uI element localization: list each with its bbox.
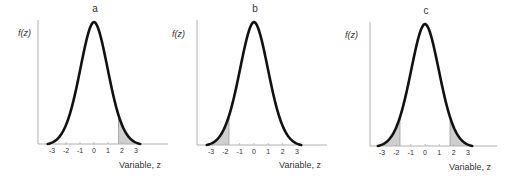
x-tick-label: 0 (423, 149, 427, 156)
x-tick-label: 3 (295, 148, 299, 155)
x-tick-label: 1 (106, 147, 110, 154)
y-axis-label: f(z) (18, 28, 31, 38)
x-tick-label: 0 (92, 147, 96, 154)
density-curve (378, 24, 472, 146)
x-tick-label: 3 (134, 147, 138, 154)
panel-title: c (424, 5, 429, 16)
three-panel-chart: -3-2-10123af(z)Variable, z -3-2-10123bf(… (0, 0, 510, 184)
panel-title: a (92, 3, 98, 14)
x-tick-label: -1 (408, 149, 414, 156)
density-curve (48, 22, 140, 144)
x-tick-label: -1 (237, 148, 243, 155)
panel-c: -3-2-10123cf(z)Variable, z (345, 5, 497, 172)
x-tick-label: -3 (208, 148, 214, 155)
shaded-tail-region (119, 115, 141, 144)
x-tick-label: -3 (49, 147, 55, 154)
x-tick-label: 1 (266, 148, 270, 155)
density-curve (207, 22, 301, 145)
x-tick-label: 3 (466, 149, 470, 156)
shaded-tail-region (378, 117, 400, 146)
x-axis-label: Variable, z (119, 160, 161, 170)
y-axis-label: f(z) (172, 29, 185, 39)
x-tick-label: 2 (120, 147, 124, 154)
x-tick-label: 1 (437, 149, 441, 156)
x-tick-label: 2 (452, 149, 456, 156)
x-axis-label: Variable, z (279, 160, 321, 170)
shaded-tail-region (207, 116, 229, 145)
x-tick-label: -2 (222, 148, 228, 155)
x-tick-label: -3 (379, 149, 385, 156)
y-axis-label: f(z) (345, 30, 358, 40)
x-tick-label: -2 (393, 149, 399, 156)
x-tick-label: -2 (63, 147, 69, 154)
panel-a: -3-2-10123af(z)Variable, z (18, 3, 168, 170)
x-tick-label: 2 (281, 148, 285, 155)
normal-distribution-figure: -3-2-10123af(z)Variable, z -3-2-10123bf(… (0, 0, 510, 184)
x-tick-label: -1 (77, 147, 83, 154)
shaded-tail-region (450, 117, 472, 146)
panel-title: b (252, 3, 258, 14)
panel-b: -3-2-10123bf(z)Variable, z (172, 3, 327, 170)
x-axis-label: Variable, z (449, 162, 491, 172)
x-tick-label: 0 (252, 148, 256, 155)
